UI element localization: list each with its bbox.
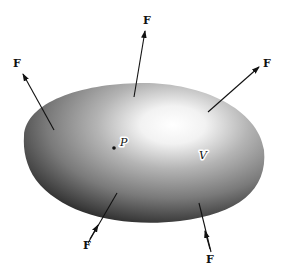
point-dot: [112, 146, 116, 150]
force-label: F: [13, 57, 21, 70]
force-body-diagram: F F F F F P V: [0, 0, 285, 276]
force-arrow-icon: [90, 225, 98, 239]
force-label: F: [206, 253, 214, 266]
body-shape: [24, 83, 265, 223]
point-label: P: [119, 136, 128, 149]
force-label: F: [263, 57, 271, 70]
force-label: F: [83, 239, 91, 252]
force-arrow-icon: [205, 231, 210, 249]
force-label: F: [143, 14, 151, 27]
force-upper-right: F: [208, 57, 271, 112]
volume-label: V: [199, 149, 208, 162]
force-arrow-icon: [208, 67, 259, 112]
body-volume: [24, 83, 265, 223]
